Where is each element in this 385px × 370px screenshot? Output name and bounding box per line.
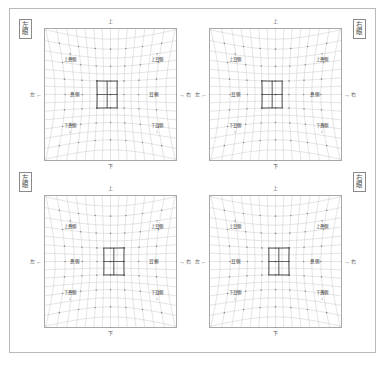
inner-note-text: 上鼻側 [316, 225, 328, 230]
axis-label-left: 左 [30, 259, 35, 264]
axis-label-top: 上 [108, 186, 113, 191]
inner-note-mid-right: 鼻側 [310, 259, 320, 264]
inner-note-mid-left: 耳側 [231, 92, 241, 97]
fixation-point [275, 261, 277, 263]
inner-note-bottom-right: 下耳側 ↓ [151, 291, 163, 301]
axis-marker-right: → 右 [344, 259, 356, 265]
arrow-left-icon: ← [36, 259, 42, 265]
tick-arrow-icon: ↓ [64, 296, 76, 302]
inner-note-bottom-right: 下鼻側 ↓ [316, 124, 328, 134]
inner-note-mid-left: 耳側 [231, 259, 241, 264]
tick-arrow-icon: ↓ [316, 129, 328, 135]
inner-note-bottom-left: 下鼻側 ↓ [64, 291, 76, 301]
arrow-right-icon: → [344, 92, 350, 98]
fixation-point [110, 94, 112, 96]
inner-note-bottom-left: 下耳側 ↓ [229, 124, 241, 134]
inner-note-text: 上耳側 [229, 58, 241, 63]
corner-tag-top-right: 右 眼 [353, 19, 366, 39]
axis-label-bottom: 下 [273, 164, 278, 169]
corner-tag-char: 眼 [21, 29, 30, 36]
fixation-point [110, 261, 112, 263]
inner-note-top-left: ↑ 上鼻側 [64, 219, 76, 229]
axis-label-bottom: 下 [108, 331, 113, 336]
axis-label-left: 左 [30, 92, 35, 97]
grid-panel-top-left: 上 下 左 ← → 右 ↑ 上鼻側 ↑ 上耳側 下鼻側 ↓ 下耳側 ↓ 鼻側 耳… [44, 28, 177, 161]
inner-note-mid-right: 鼻側 [310, 92, 320, 97]
inner-note-text: 上耳側 [151, 58, 163, 63]
axis-marker-left: 左 ← [30, 259, 42, 265]
inner-note-text: 上鼻側 [64, 225, 76, 230]
inner-note-bottom-right: 下鼻側 ↓ [316, 291, 328, 301]
axis-marker-right: → 右 [344, 92, 356, 98]
inner-note-top-right: ↑ 上耳側 [151, 219, 163, 229]
axis-label-top: 上 [273, 186, 278, 191]
axis-marker-right: → 右 [179, 259, 191, 265]
axis-label-right: 右 [186, 92, 191, 97]
axis-label-left: 左 [195, 259, 200, 264]
corner-tag-char: 眼 [355, 29, 364, 36]
axis-label-right: 右 [186, 259, 191, 264]
tick-arrow-icon: ↓ [151, 296, 163, 302]
axis-marker-left: 左 ← [195, 259, 207, 265]
inner-note-mid-left: 鼻側 [70, 92, 80, 97]
axis-label-right: 右 [351, 92, 356, 97]
inner-note-top-right: ↑ 上鼻側 [316, 52, 328, 62]
corner-tag-char: 眼 [21, 182, 30, 189]
grid-panel-bottom-left: 上 下 左 ← → 右 ↑ 上鼻側 ↑ 上耳側 下鼻側 ↓ 下耳側 ↓ 鼻側 耳… [44, 195, 177, 328]
inner-note-bottom-right: 下耳側 ↓ [151, 124, 163, 134]
tick-arrow-icon: ↓ [229, 129, 241, 135]
axis-marker-left: 左 ← [195, 92, 207, 98]
inner-note-text: 上鼻側 [316, 58, 328, 63]
axis-marker-right: → 右 [179, 92, 191, 98]
inner-note-top-left: ↑ 上鼻側 [64, 52, 76, 62]
corner-tag-char: 眼 [355, 182, 364, 189]
inner-note-bottom-left: 下鼻側 ↓ [64, 124, 76, 134]
fixation-point [275, 94, 277, 96]
chart-page: 左 眼 右 眼 左 眼 右 眼 上 下 左 ← → 右 ↑ 上鼻側 ↑ [0, 0, 385, 370]
axis-label-top: 上 [108, 19, 113, 24]
axis-label-left: 左 [195, 92, 200, 97]
tick-arrow-icon: ↓ [64, 129, 76, 135]
corner-tag-top-left: 左 眼 [19, 19, 32, 39]
inner-note-top-left: ↑ 上耳側 [229, 219, 241, 229]
arrow-left-icon: ← [201, 92, 207, 98]
grid-panel-top-right: 上 下 左 ← → 右 ↑ 上耳側 ↑ 上鼻側 下耳側 ↓ 下鼻側 ↓ 耳側 鼻… [209, 28, 342, 161]
tick-arrow-icon: ↓ [316, 296, 328, 302]
arrow-left-icon: ← [201, 259, 207, 265]
corner-tag-bottom-right: 右 眼 [353, 172, 366, 192]
inner-note-text: 上鼻側 [64, 58, 76, 63]
inner-note-mid-right: 耳側 [149, 259, 159, 264]
arrow-left-icon: ← [36, 92, 42, 98]
tick-arrow-icon: ↓ [151, 129, 163, 135]
arrow-right-icon: → [179, 259, 185, 265]
axis-marker-left: 左 ← [30, 92, 42, 98]
arrow-right-icon: → [179, 92, 185, 98]
inner-note-text: 上耳側 [229, 225, 241, 230]
inner-note-mid-left: 鼻側 [70, 259, 80, 264]
inner-note-top-right: ↑ 上耳側 [151, 52, 163, 62]
arrow-right-icon: → [344, 259, 350, 265]
corner-tag-bottom-left: 左 眼 [19, 172, 32, 192]
axis-label-bottom: 下 [108, 164, 113, 169]
axis-label-top: 上 [273, 19, 278, 24]
inner-note-top-left: ↑ 上耳側 [229, 52, 241, 62]
grid-panel-bottom-right: 上 下 左 ← → 右 ↑ 上耳側 ↑ 上鼻側 下耳側 ↓ 下鼻側 ↓ 耳側 鼻… [209, 195, 342, 328]
inner-note-bottom-left: 下耳側 ↓ [229, 291, 241, 301]
inner-note-text: 上耳側 [151, 225, 163, 230]
inner-note-top-right: ↑ 上鼻側 [316, 219, 328, 229]
axis-label-bottom: 下 [273, 331, 278, 336]
axis-label-right: 右 [351, 259, 356, 264]
inner-note-mid-right: 耳側 [149, 92, 159, 97]
tick-arrow-icon: ↓ [229, 296, 241, 302]
